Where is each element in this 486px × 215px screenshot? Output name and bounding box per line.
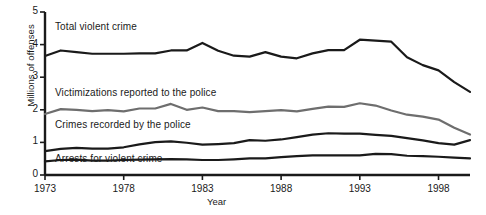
y-tick-label: 3 bbox=[22, 70, 38, 81]
x-tick-label: 1998 bbox=[419, 183, 459, 194]
y-tick-label: 2 bbox=[22, 103, 38, 114]
violent-crime-line-chart: Millions of offenses Year 012345 1973197… bbox=[0, 0, 486, 215]
series-line bbox=[45, 40, 470, 92]
series-label: Crimes recorded by the police bbox=[55, 119, 191, 130]
x-axis-title: Year bbox=[207, 196, 226, 207]
plot-area bbox=[0, 0, 486, 215]
x-tick-label: 1973 bbox=[25, 183, 65, 194]
series-line bbox=[45, 133, 470, 151]
y-tick-label: 1 bbox=[22, 135, 38, 146]
y-tick-label: 5 bbox=[22, 5, 38, 16]
series-label: Total violent crime bbox=[55, 21, 137, 32]
x-tick-label: 1983 bbox=[182, 183, 222, 194]
x-tick-label: 1978 bbox=[104, 183, 144, 194]
series-lines bbox=[45, 40, 470, 162]
y-tick-label: 4 bbox=[22, 38, 38, 49]
series-label: Victimizations reported to the police bbox=[55, 87, 216, 98]
series-label: Arrests for violent crime bbox=[55, 153, 163, 164]
x-tick-label: 1988 bbox=[261, 183, 301, 194]
y-tick-label: 0 bbox=[22, 168, 38, 179]
x-tick-label: 1993 bbox=[340, 183, 380, 194]
